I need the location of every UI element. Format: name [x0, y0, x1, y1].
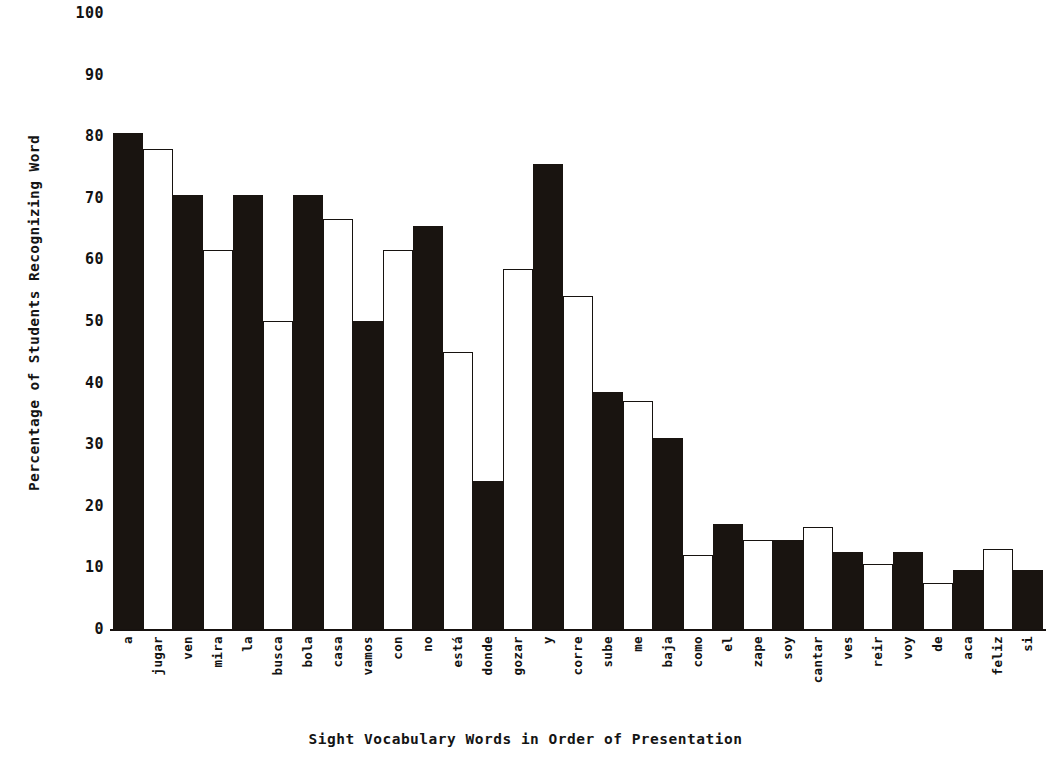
- x-label-slot: el: [713, 636, 743, 722]
- x-tick-label: ves: [842, 636, 855, 660]
- x-tick-label: ven: [182, 636, 195, 660]
- x-tick-label: zape: [752, 636, 765, 668]
- bar: [143, 149, 173, 629]
- bar-slot: [653, 13, 683, 629]
- bar: [203, 250, 233, 629]
- x-tick-label: voy: [902, 636, 915, 660]
- bar: [1013, 570, 1043, 629]
- x-label-slot: reir: [863, 636, 893, 722]
- bar: [593, 392, 623, 629]
- x-tick-label: casa: [332, 636, 345, 668]
- bar-slot: [563, 13, 593, 629]
- bar: [803, 527, 833, 629]
- bar-slot: [383, 13, 413, 629]
- x-label-slot: vamos: [353, 636, 383, 722]
- bar: [683, 555, 713, 629]
- x-label-slot: gozar: [503, 636, 533, 722]
- x-label-slot: sube: [593, 636, 623, 722]
- bar: [383, 250, 413, 629]
- x-label-slot: corre: [563, 636, 593, 722]
- bar-slot: [113, 13, 143, 629]
- bar-slot: [983, 13, 1013, 629]
- bar: [173, 195, 203, 629]
- bar-slot: [623, 13, 653, 629]
- y-tick-label: 20: [0, 499, 104, 514]
- bar: [113, 133, 143, 629]
- x-tick-label: el: [722, 636, 735, 652]
- x-label-slot: como: [683, 636, 713, 722]
- bar: [563, 296, 593, 629]
- x-axis-line: [110, 629, 1046, 631]
- x-tick-label: reir: [872, 636, 885, 668]
- bar: [923, 583, 953, 629]
- y-tick-label: 10: [0, 560, 104, 575]
- bar: [743, 540, 773, 629]
- y-tick-label: 90: [0, 68, 104, 83]
- bar-slot: [1013, 13, 1043, 629]
- x-tick-label: está: [452, 636, 465, 668]
- bar-slot: [353, 13, 383, 629]
- x-tick-label: cantar: [812, 636, 825, 683]
- bar: [233, 195, 263, 629]
- x-label-slot: jugar: [143, 636, 173, 722]
- bar: [983, 549, 1013, 629]
- x-tick-label: y: [542, 636, 555, 644]
- x-axis-title: Sight Vocabulary Words in Order of Prese…: [0, 731, 1051, 747]
- x-label-slot: mira: [203, 636, 233, 722]
- bar-slot: [773, 13, 803, 629]
- x-tick-label: sube: [602, 636, 615, 668]
- y-tick-label: 40: [0, 376, 104, 391]
- y-tick-label: 50: [0, 314, 104, 329]
- x-label-slot: feliz: [983, 636, 1013, 722]
- x-label-slot: zape: [743, 636, 773, 722]
- y-tick-label: 60: [0, 252, 104, 267]
- x-label-slot: bola: [293, 636, 323, 722]
- bar-slot: [803, 13, 833, 629]
- bar-slot: [143, 13, 173, 629]
- bar-slot: [473, 13, 503, 629]
- x-label-slot: a: [113, 636, 143, 722]
- bar: [833, 552, 863, 629]
- bar: [323, 219, 353, 629]
- y-tick-label: 70: [0, 191, 104, 206]
- x-label-slot: casa: [323, 636, 353, 722]
- x-label-slot: si: [1013, 636, 1043, 722]
- x-label-slot: donde: [473, 636, 503, 722]
- x-label-slot: está: [443, 636, 473, 722]
- x-tick-label: bola: [302, 636, 315, 668]
- bar: [623, 401, 653, 629]
- x-tick-label: jugar: [152, 636, 165, 675]
- bar: [443, 352, 473, 629]
- x-label-slot: la: [233, 636, 263, 722]
- bar-slot: [893, 13, 923, 629]
- bar-slot: [173, 13, 203, 629]
- bar-slot: [203, 13, 233, 629]
- x-tick-label: soy: [782, 636, 795, 660]
- x-label-slot: voy: [893, 636, 923, 722]
- bar-slot: [923, 13, 953, 629]
- bar-slot: [713, 13, 743, 629]
- bar: [953, 570, 983, 629]
- plot-area: [113, 13, 1043, 629]
- x-axis-tick-labels: ajugarvenmiralabuscabolacasavamosconnoes…: [113, 636, 1043, 722]
- bar-slot: [443, 13, 473, 629]
- bar-chart-figure: Percentage of Students Recognizing Word …: [0, 0, 1051, 761]
- x-label-slot: con: [383, 636, 413, 722]
- bar-slot: [263, 13, 293, 629]
- bar-slot: [833, 13, 863, 629]
- bar: [653, 438, 683, 629]
- x-tick-label: como: [692, 636, 705, 668]
- bar-slot: [233, 13, 263, 629]
- bar: [503, 269, 533, 629]
- x-label-slot: ven: [173, 636, 203, 722]
- bar-slot: [863, 13, 893, 629]
- bar-slot: [503, 13, 533, 629]
- x-label-slot: ves: [833, 636, 863, 722]
- x-label-slot: busca: [263, 636, 293, 722]
- y-tick-label: 80: [0, 129, 104, 144]
- x-label-slot: de: [923, 636, 953, 722]
- bar: [263, 321, 293, 629]
- bar: [293, 195, 323, 629]
- y-tick-label: 100: [0, 6, 104, 21]
- y-tick-label: 30: [0, 437, 104, 452]
